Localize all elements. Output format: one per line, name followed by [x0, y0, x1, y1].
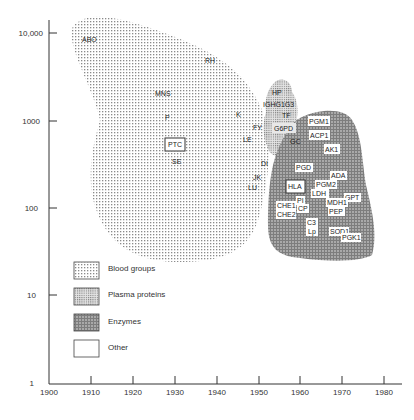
point-label: PGM1 [309, 118, 329, 125]
x-tick-label: 1980 [375, 388, 393, 397]
legend-label: Blood groups [108, 264, 155, 273]
point-label: ADA [331, 172, 346, 179]
x-tick-label: 1930 [166, 388, 184, 397]
y-tick-label: 100 [25, 204, 39, 213]
x-tick-label: 1900 [40, 388, 58, 397]
point-label: JK [253, 174, 262, 181]
y-tick-label: 1000 [22, 117, 40, 126]
x-axis: 1900 1910 1920 1930 1940 1950 1960 1970 … [40, 376, 402, 397]
point-label: LDH [312, 190, 326, 197]
x-tick-label: 1920 [124, 388, 142, 397]
point-label: PEP [329, 208, 343, 215]
point-label: RH [205, 57, 215, 64]
point-label: PI [297, 197, 304, 204]
point-label: SE [172, 158, 182, 165]
y-tick-label: 10 [27, 291, 36, 300]
point-label: MDH1 [327, 199, 347, 206]
point-label: LU [248, 184, 257, 191]
y-axis: 10,000 1000 100 10 1 [19, 20, 57, 388]
x-tick-label: 1960 [291, 388, 309, 397]
chart: 10,000 1000 100 10 1 1900 1910 1920 1930… [0, 0, 414, 420]
point-label: TF [282, 112, 291, 119]
point-label: P [165, 114, 170, 121]
point-label: PTC [168, 141, 182, 148]
point-label: GC [290, 138, 301, 145]
point-label: LE [243, 136, 252, 143]
point-label: C3 [307, 219, 316, 226]
point-label: PGM2 [316, 181, 336, 188]
point-label: Lp [308, 228, 316, 236]
point-label: AK1 [325, 146, 338, 153]
point-label: MNS [155, 90, 171, 97]
x-tick-label: 1950 [250, 388, 268, 397]
point-label: K [236, 111, 241, 118]
point-label: ACP1 [310, 132, 328, 139]
legend-label: Plasma proteins [108, 290, 165, 299]
legend: Blood groups Plasma proteins Enzymes Oth… [74, 262, 165, 357]
point-label: HP [272, 89, 282, 96]
point-label: HLA [288, 183, 302, 190]
point-label: CHE2 [277, 211, 296, 218]
x-tick-label: 1970 [333, 388, 351, 397]
x-tick-label: 1910 [82, 388, 100, 397]
y-tick-label: 10,000 [19, 29, 44, 38]
legend-label: Other [108, 343, 128, 352]
point-label: FY [253, 124, 262, 131]
point-label: ABO [82, 36, 97, 43]
point-label: CP [298, 205, 308, 212]
point-label: PGD [296, 164, 311, 171]
x-tick-label: 1940 [208, 388, 226, 397]
y-tick-label: 1 [30, 379, 35, 388]
legend-label: Enzymes [108, 317, 141, 326]
point-label: DI [261, 160, 268, 167]
point-label: CHE1 [277, 202, 296, 209]
point-label: G6PD [274, 125, 293, 132]
point-label: IGHG1G3 [263, 101, 294, 108]
point-label: PGK1 [342, 234, 361, 241]
